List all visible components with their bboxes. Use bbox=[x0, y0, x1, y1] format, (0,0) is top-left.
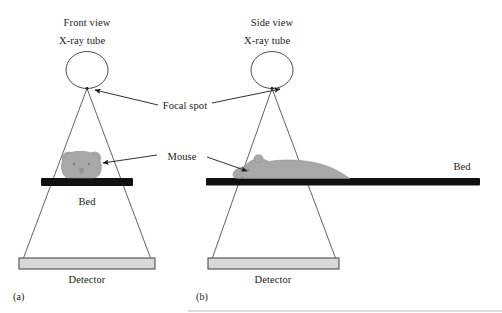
focal-spot-arrow-right-icon bbox=[212, 89, 280, 103]
front-view-title: Front view bbox=[64, 17, 111, 28]
detector-array-icon-a bbox=[19, 258, 155, 269]
bed-label-a: Bed bbox=[78, 196, 96, 207]
panel-label-b: (b) bbox=[196, 291, 208, 303]
mouse-side-icon bbox=[233, 155, 350, 179]
panel-a-front-view bbox=[19, 52, 155, 270]
side-view-title: Side view bbox=[251, 17, 294, 28]
bed-bar-icon-b bbox=[206, 178, 480, 186]
xray-tube-icon bbox=[66, 52, 108, 89]
figure-canvas: Front view X-ray tube Side view X-ray tu… bbox=[0, 0, 502, 313]
focal-spot-label: Focal spot bbox=[163, 100, 207, 111]
xray-tube-icon-b bbox=[251, 52, 293, 89]
panel-label-a: (a) bbox=[13, 291, 24, 303]
detector-array-icon-b bbox=[208, 258, 339, 269]
detector-label-b: Detector bbox=[255, 274, 292, 285]
focal-spot-arrow-left-icon bbox=[95, 90, 158, 105]
xray-imaging-geometry-figure: Front view X-ray tube Side view X-ray tu… bbox=[0, 0, 502, 313]
detector-label-a: Detector bbox=[69, 274, 106, 285]
mouse-arrow-left-icon bbox=[103, 155, 157, 163]
mouse-front-icon bbox=[61, 151, 101, 178]
bed-bar-icon-a bbox=[41, 178, 133, 186]
xray-tube-label-a: X-ray tube bbox=[59, 35, 105, 46]
mouse-label: Mouse bbox=[167, 151, 196, 162]
panel-b-side-view bbox=[206, 52, 480, 270]
bed-label-b: Bed bbox=[453, 161, 471, 172]
mouse-arrow-right-icon bbox=[207, 157, 247, 171]
xray-tube-label-b: X-ray tube bbox=[244, 35, 290, 46]
